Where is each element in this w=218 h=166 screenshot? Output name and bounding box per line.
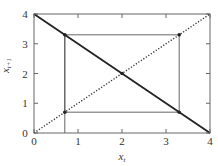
y-tick-label: 2 <box>22 68 28 80</box>
axis-tick-labels: 0123401234 <box>22 8 213 147</box>
y-tick-label: 1 <box>22 97 28 109</box>
y-tick-label: 3 <box>22 38 28 50</box>
y-axis-label: xt+1 <box>0 58 13 74</box>
cobweb-plot: 0123401234 xt xt+1 <box>0 0 218 166</box>
point-marker <box>120 72 124 76</box>
point-marker <box>63 110 67 114</box>
x-tick-label: 1 <box>75 135 81 147</box>
point-marker <box>63 33 67 37</box>
y-tick-label: 0 <box>22 127 28 139</box>
series-line <box>65 35 179 133</box>
y-axis-label-sub: t+1 <box>5 58 13 68</box>
x-axis-label: xt <box>118 150 127 164</box>
x-tick-label: 2 <box>119 135 125 147</box>
x-axis-label-sub: t <box>123 156 126 164</box>
point-marker <box>177 110 181 114</box>
y-tick-label: 4 <box>22 8 28 20</box>
x-tick-label: 3 <box>163 135 169 147</box>
point-marker <box>177 33 181 37</box>
x-tick-label: 0 <box>31 135 37 147</box>
x-tick-label: 4 <box>207 135 213 147</box>
